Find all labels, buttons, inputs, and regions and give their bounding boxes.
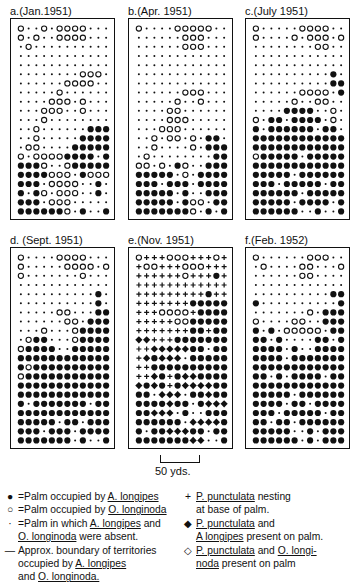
legend-text: P. punctulata (196, 545, 255, 556)
legend-text: present on palm (219, 558, 296, 569)
legend-text: Approx. boundary of territories (18, 545, 157, 556)
legend-text: occupied by (18, 558, 75, 569)
panel-map-c (245, 18, 350, 220)
legend-text: A. longipes (90, 518, 141, 529)
legend-text: present on palm. (244, 531, 324, 542)
legend-item: A longipes present on palm. (182, 530, 323, 543)
legend-item: ◆P. punctulata and (182, 517, 323, 530)
panel-map-d (10, 247, 115, 449)
legend-text: and (141, 518, 161, 529)
panel-title-b: b.(Apr. 1951) (128, 5, 192, 17)
legend-text: O. longinoda (108, 504, 166, 515)
legend-text: and (18, 571, 38, 582)
legend-text: =Palm occupied by (18, 491, 108, 502)
legend-text: O. longi- (278, 545, 317, 556)
legend-text: and (255, 545, 278, 556)
legend-symbol-icon: — (4, 544, 16, 557)
legend-text: A. longipes (108, 491, 159, 502)
legend-item: occupied by A. longipes (4, 557, 167, 570)
legend-symbol-icon: ◆ (182, 517, 194, 530)
legend-right: +P. punctulata nestingat base of palm.◆P… (182, 490, 323, 570)
legend-item: —Approx. boundary of territories (4, 544, 167, 557)
legend-item: and O. longinoda. (4, 570, 167, 583)
legend-left: ●=Palm occupied by A. longipes○=Palm occ… (4, 490, 167, 584)
legend-text: and (255, 518, 275, 529)
legend-text: nesting (255, 491, 291, 502)
legend-item: at base of palm. (182, 503, 323, 516)
panel-title-c: c.(July 1951) (245, 5, 308, 17)
legend-item: +P. punctulata nesting (182, 490, 323, 503)
scale-bar-label: 50 yds. (155, 465, 190, 477)
panel-title-a: a.(Jan.1951) (10, 5, 72, 17)
panel-map-f (245, 247, 350, 449)
legend-item: ·=Palm in which A. longipes and (4, 517, 167, 530)
legend-text: at base of palm. (196, 504, 269, 515)
panel-title-e: e.(Nov. 1951) (128, 234, 194, 246)
legend-symbol-icon: ○ (4, 503, 16, 516)
legend-item: ●=Palm occupied by A. longipes (4, 490, 167, 503)
panel-title-f: f.(Feb. 1952) (245, 234, 308, 246)
legend-symbol-icon: · (4, 517, 16, 530)
legend-text: O. longinoda. (38, 571, 99, 582)
panel-title-d: d. (Sept. 1951) (10, 234, 83, 246)
legend-text: were absent. (76, 531, 138, 542)
legend-item: ○=Palm occupied by O. longinoda (4, 503, 167, 516)
panel-map-e (128, 247, 233, 449)
legend-symbol-icon: + (182, 490, 194, 503)
legend-text: noda (196, 558, 219, 569)
legend-text: =Palm occupied by (18, 504, 108, 515)
legend-text: P. punctulata (196, 518, 255, 529)
legend-item: noda present on palm (182, 557, 323, 570)
scale-bar-line (160, 455, 200, 463)
legend-symbol-icon: ◇ (182, 544, 194, 557)
legend-item: O. longinoda were absent. (4, 530, 167, 543)
legend-item: ◇P. punctulata and O. longi- (182, 544, 323, 557)
legend-symbol-icon: ● (4, 490, 16, 503)
legend-text: =Palm in which (18, 518, 90, 529)
legend-text: A. longipes (75, 558, 126, 569)
panel-map-b (128, 18, 233, 220)
scale-bar: 50 yds. (140, 453, 230, 483)
panel-map-a (10, 18, 115, 220)
legend-text: O. longinoda (18, 531, 76, 542)
legend-text: P. punctulata (196, 491, 255, 502)
legend-text: A longipes (196, 531, 244, 542)
